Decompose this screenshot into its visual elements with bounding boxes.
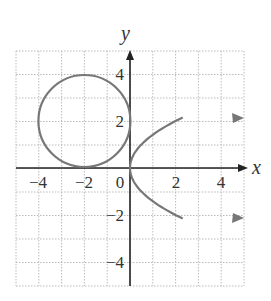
- y-tick-label: 4: [116, 65, 125, 84]
- y-tick-label: 2: [116, 112, 125, 131]
- y-axis-label: y: [119, 22, 130, 45]
- x-tick-label: 0: [116, 173, 125, 192]
- graph: x y −4 −2 0 2 4 4 2 −2 −4: [0, 0, 271, 301]
- axes: [16, 50, 248, 286]
- x-axis-arrow-icon: [238, 164, 248, 172]
- x-tick-label: 4: [217, 173, 226, 192]
- x-tick-label: 2: [172, 173, 181, 192]
- y-tick-label: −4: [106, 253, 125, 272]
- x-tick-label: −4: [29, 173, 48, 192]
- parabola-arrow-lower-icon: [232, 213, 244, 223]
- x-axis-label: x: [251, 156, 261, 178]
- x-tick-labels: −4 −2 0 2 4: [29, 173, 226, 192]
- x-tick-label: −2: [75, 173, 93, 192]
- y-tick-label: −2: [106, 206, 124, 225]
